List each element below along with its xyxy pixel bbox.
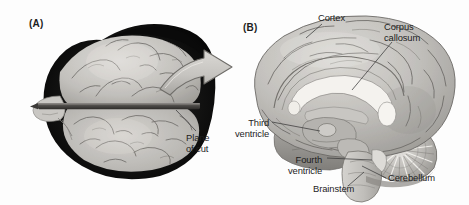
panel-a-illustration — [30, 24, 215, 184]
third-ventricle — [318, 124, 336, 137]
label-brainstem: Brainstem — [313, 184, 354, 195]
label-fourth-ventricle: Fourth ventricle — [288, 155, 322, 176]
label-corpus-callosum: Corpus callosum — [384, 22, 420, 43]
panel-b-tag: (B) — [243, 22, 257, 33]
label-plane-of-cut: Plane of cut — [186, 133, 209, 154]
plane-of-cut-bar — [30, 103, 200, 109]
brain-section-figure: (A) (B) Plane of cut Cortex Corpus callo… — [0, 0, 469, 205]
label-cerebellum: Cerebellum — [388, 173, 435, 184]
label-third-ventricle: Third ventricle — [235, 118, 269, 139]
panel-a-tag: (A) — [29, 18, 43, 29]
label-cortex: Cortex — [318, 13, 345, 24]
